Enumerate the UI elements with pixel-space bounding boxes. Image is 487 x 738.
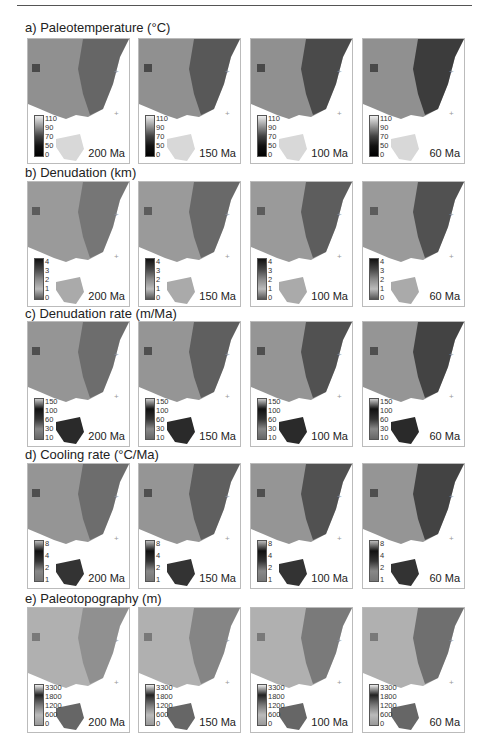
- colorbar-tick: 70: [45, 133, 57, 141]
- colorbar: [34, 258, 44, 300]
- colorbar: [257, 684, 267, 726]
- age-label: 200 Ma: [88, 290, 125, 302]
- colorbar-tick: 4: [156, 552, 160, 560]
- colorbar-tick: 3: [45, 267, 49, 275]
- colorbar-tick: 600: [380, 711, 397, 719]
- age-label: 60 Ma: [429, 430, 460, 442]
- graticule-marker: +: [225, 210, 230, 219]
- age-label: 150 Ma: [199, 572, 236, 584]
- colorbar-ticks: 8421: [268, 540, 272, 584]
- graticule-marker: +: [449, 67, 454, 76]
- colorbar-tick: 100: [45, 407, 58, 415]
- colorbar-tick: 3: [380, 267, 384, 275]
- colorbar-tick: 1200: [380, 702, 397, 710]
- map-panel: + + 8421 200 Ma: [27, 463, 130, 589]
- graticule-marker: +: [449, 252, 454, 261]
- colorbar: [145, 115, 155, 157]
- map-panel: + + 3300180012006000 60 Ma: [362, 607, 465, 733]
- colorbar-tick: 4: [45, 552, 49, 560]
- colorbar-tick: 2: [268, 276, 272, 284]
- colorbar-tick: 0: [268, 294, 272, 302]
- colorbar-tick: 4: [156, 258, 160, 266]
- colorbar: [257, 258, 267, 300]
- colorbar-ticks: 1109070500: [380, 115, 392, 159]
- colorbar-tick: 1: [156, 285, 160, 293]
- graticule-marker: +: [225, 67, 230, 76]
- colorbar-ticks: 150100603010: [268, 398, 281, 442]
- graticule-marker: +: [225, 492, 230, 501]
- colorbar: [34, 540, 44, 582]
- graticule-marker: +: [114, 67, 119, 76]
- age-label: 100 Ma: [311, 430, 348, 442]
- map-panel: + + 1109070500 100 Ma: [250, 38, 353, 164]
- colorbar: [257, 398, 267, 440]
- colorbar-ticks: 150100603010: [45, 398, 58, 442]
- map-panel: + + 150100603010 60 Ma: [362, 321, 465, 447]
- colorbar-tick: 3300: [380, 684, 397, 692]
- colorbar-tick: 0: [156, 151, 168, 159]
- colorbar-ticks: 8421: [45, 540, 49, 584]
- colorbar-tick: 0: [268, 720, 285, 728]
- map-panel: + + 150100603010 150 Ma: [138, 321, 241, 447]
- colorbar-tick: 150: [380, 398, 393, 406]
- map-panel: + + 8421 60 Ma: [362, 463, 465, 589]
- colorbar-tick: 30: [156, 425, 169, 433]
- colorbar-ticks: 150100603010: [156, 398, 169, 442]
- graticule-marker: +: [449, 109, 454, 118]
- graticule-marker: +: [114, 252, 119, 261]
- row-title: c) Denudation rate (m/Ma): [25, 306, 177, 321]
- colorbar-tick: 1: [156, 576, 160, 584]
- map-panel: + + 1109070500 200 Ma: [27, 38, 130, 164]
- graticule-marker: +: [449, 636, 454, 645]
- graticule-marker: +: [337, 534, 342, 543]
- colorbar-tick: 1: [45, 285, 49, 293]
- colorbar-tick: 90: [380, 124, 392, 132]
- colorbar-tick: 0: [380, 151, 392, 159]
- colorbar-ticks: 150100603010: [380, 398, 393, 442]
- colorbar-tick: 2: [156, 564, 160, 572]
- graticule-marker: +: [337, 636, 342, 645]
- age-label: 100 Ma: [311, 290, 348, 302]
- map-panel: + + 43210 100 Ma: [250, 181, 353, 307]
- row-title: a) Paleotemperature (°C): [25, 20, 170, 35]
- age-label: 200 Ma: [88, 716, 125, 728]
- graticule-marker: +: [114, 109, 119, 118]
- colorbar-tick: 60: [156, 416, 169, 424]
- age-label: 60 Ma: [429, 147, 460, 159]
- colorbar: [369, 258, 379, 300]
- colorbar-tick: 1: [380, 576, 384, 584]
- colorbar-tick: 50: [380, 142, 392, 150]
- graticule-marker: +: [337, 350, 342, 359]
- map-panel: + + 3300180012006000 150 Ma: [138, 607, 241, 733]
- colorbar-tick: 4: [268, 258, 272, 266]
- age-label: 150 Ma: [199, 430, 236, 442]
- graticule-marker: +: [225, 109, 230, 118]
- colorbar-tick: 3300: [156, 684, 173, 692]
- colorbar: [34, 684, 44, 726]
- age-label: 200 Ma: [88, 147, 125, 159]
- colorbar-tick: 30: [380, 425, 393, 433]
- colorbar: [145, 258, 155, 300]
- graticule-marker: +: [449, 392, 454, 401]
- colorbar-tick: 0: [45, 720, 62, 728]
- colorbar-tick: 90: [45, 124, 57, 132]
- graticule-marker: +: [337, 392, 342, 401]
- colorbar: [145, 398, 155, 440]
- colorbar-tick: 110: [156, 115, 168, 123]
- colorbar-tick: 4: [45, 258, 49, 266]
- colorbar-tick: 1200: [156, 702, 173, 710]
- colorbar-tick: 10: [45, 434, 58, 442]
- map-panel: + + 150100603010 200 Ma: [27, 321, 130, 447]
- colorbar-tick: 2: [156, 276, 160, 284]
- colorbar: [257, 540, 267, 582]
- colorbar-tick: 3: [268, 267, 272, 275]
- colorbar-tick: 0: [156, 720, 173, 728]
- map-panel: + + 43210 60 Ma: [362, 181, 465, 307]
- colorbar-tick: 30: [268, 425, 281, 433]
- colorbar-tick: 10: [156, 434, 169, 442]
- colorbar-tick: 0: [380, 294, 384, 302]
- colorbar-tick: 50: [156, 142, 168, 150]
- colorbar-tick: 60: [45, 416, 58, 424]
- age-label: 60 Ma: [429, 716, 460, 728]
- page-header-rule: [17, 5, 472, 6]
